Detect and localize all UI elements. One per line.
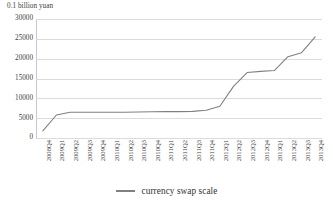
x-axis-tick-label: 2009Q2 — [70, 140, 77, 161]
x-axis-tick-label: 2011Q2 — [179, 140, 186, 161]
y-axis-tick-label-group: 050001000015000200002500030000 — [0, 0, 33, 204]
x-axis-tick-label: 2012Q1 — [220, 140, 227, 161]
y-axis-tick-label: 30000 — [15, 15, 33, 22]
x-axis-tick-label: 2009Q3 — [84, 140, 91, 161]
y-axis-tick-label: 25000 — [15, 35, 33, 42]
chart-figure: 0.1 billion yuan 05000100001500020000250… — [0, 0, 333, 204]
x-axis-tick-label-group: 2008Q42009Q12009Q22009Q32009Q42010Q12010… — [36, 140, 322, 184]
x-axis-tick-label: 2013Q1 — [274, 140, 281, 161]
x-axis-tick-label: 2012Q4 — [261, 140, 268, 161]
gridline — [36, 138, 322, 139]
x-axis-tick-label: 2010Q1 — [111, 140, 118, 161]
legend-line-swatch — [116, 190, 135, 191]
x-axis-tick-label: 2010Q3 — [138, 140, 145, 161]
series-line-group — [36, 19, 322, 138]
x-axis-tick-label: 2011Q3 — [193, 140, 200, 161]
x-axis-tick-label: 2013Q3 — [302, 140, 309, 161]
x-axis-tick-label: 2012Q3 — [247, 140, 254, 161]
y-axis-tick-label: 5000 — [19, 115, 33, 122]
y-axis-tick-label: 20000 — [15, 55, 33, 62]
x-axis-tick-label: 2009Q1 — [56, 140, 63, 161]
y-axis-tick-label: 10000 — [15, 95, 33, 102]
x-axis-tick-label: 2012Q2 — [233, 140, 240, 161]
x-axis-tick-label: 2008Q4 — [43, 140, 50, 161]
x-axis-tick-label: 2013Q4 — [315, 140, 322, 161]
x-axis-tick-label: 2011Q1 — [165, 140, 172, 161]
x-axis-tick-label: 2009Q4 — [97, 140, 104, 161]
chart-legend: currency swap scale — [0, 186, 333, 196]
x-axis-tick-label: 2013Q2 — [288, 140, 295, 161]
plot-area — [36, 19, 322, 138]
x-axis-tick-label: 2010Q2 — [125, 140, 132, 161]
y-axis-tick-label: 15000 — [15, 75, 33, 82]
series-line-currency-swap-scale — [43, 37, 315, 131]
legend-label-currency-swap-scale: currency swap scale — [142, 186, 218, 196]
x-axis-tick-label: 2011Q4 — [206, 140, 213, 161]
x-axis-tick-label: 2010Q4 — [152, 140, 159, 161]
y-axis-tick-label: 0 — [29, 134, 33, 141]
